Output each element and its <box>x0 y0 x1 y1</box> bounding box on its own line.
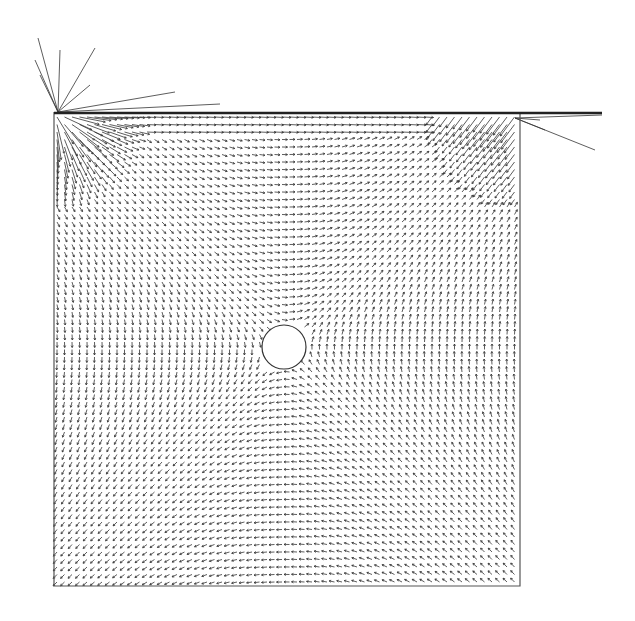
velocity-arrows <box>35 38 602 586</box>
circular-obstacle <box>262 325 306 369</box>
vector-field-plot <box>0 0 635 621</box>
